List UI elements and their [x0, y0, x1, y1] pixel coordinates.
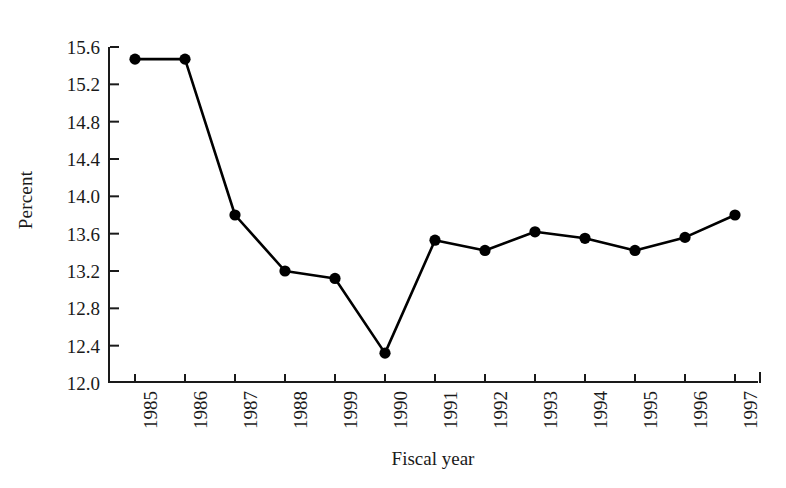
- data-point-marker: [129, 54, 140, 65]
- data-point-marker: [379, 348, 390, 359]
- y-tick-label: 12.0: [46, 374, 100, 393]
- y-tick-label: 14.0: [46, 187, 100, 206]
- x-tick-label: 1997: [741, 391, 760, 429]
- y-tick-label: 13.2: [46, 262, 100, 281]
- data-point-marker: [729, 209, 740, 220]
- x-tick-label: 1990: [391, 391, 410, 429]
- data-point-marker: [579, 233, 590, 244]
- x-axis-title: Fiscal year: [108, 448, 758, 470]
- data-point-marker: [429, 235, 440, 246]
- data-point-marker: [179, 54, 190, 65]
- x-tick-label: 1995: [641, 391, 660, 429]
- series-markers-percent: [129, 54, 740, 359]
- data-point-marker: [679, 232, 690, 243]
- series-line-percent: [135, 59, 735, 353]
- x-tick-label: 1991: [441, 391, 460, 429]
- y-axis-tick-labels: 12.012.412.813.213.614.014.414.815.215.6: [44, 0, 100, 488]
- y-tick-label: 14.4: [46, 150, 100, 169]
- data-point-marker: [529, 226, 540, 237]
- x-tick-label: 1988: [291, 391, 310, 429]
- data-point-marker: [629, 245, 640, 256]
- x-tick-label: 1985: [141, 391, 160, 429]
- y-tick-label: 14.8: [46, 112, 100, 131]
- x-tick-label: 1987: [241, 391, 260, 429]
- data-point-marker: [279, 265, 290, 276]
- line-chart-figure: Percent 12.012.412.813.213.614.014.414.8…: [0, 0, 786, 488]
- data-point-marker: [329, 273, 340, 284]
- y-tick-label: 12.4: [46, 336, 100, 355]
- y-tick-label: 13.6: [46, 224, 100, 243]
- plot-area: [108, 47, 758, 383]
- x-tick-label: 1996: [691, 391, 710, 429]
- x-tick-label: 1994: [591, 391, 610, 429]
- x-tick-label: 1993: [541, 391, 560, 429]
- y-tick-label: 15.2: [46, 75, 100, 94]
- y-tick-label: 12.8: [46, 299, 100, 318]
- axis-tick-marks: [110, 47, 760, 383]
- x-tick-label: 1986: [191, 391, 210, 429]
- data-point-marker: [479, 245, 490, 256]
- y-tick-label: 15.6: [46, 38, 100, 57]
- x-tick-label: 1999: [341, 391, 360, 429]
- data-point-marker: [229, 209, 240, 220]
- x-tick-label: 1992: [491, 391, 510, 429]
- data-series-plot: [110, 47, 760, 383]
- y-axis-title-text: Percent: [15, 171, 37, 229]
